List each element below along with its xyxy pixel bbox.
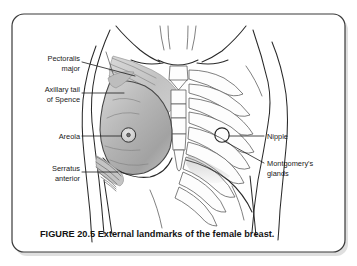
label-axillary-tail-of-spence: Axillary tail of Spence (45, 85, 81, 104)
label-pectoralis-major-line1: Pectoralis (48, 54, 81, 63)
label-axillary-tail-line1: Axillary tail (45, 85, 81, 94)
label-nipple-line1: Nipple (267, 132, 288, 141)
label-pectoralis-major-line2: major (62, 64, 81, 73)
label-axillary-tail-line2: of Spence (47, 95, 80, 104)
label-nipple: Nipple (267, 132, 288, 141)
label-serratus-anterior-line2: anterior (55, 174, 81, 183)
label-areola-line1: Areola (59, 132, 81, 141)
figure-container: Pectoralis major Axillary tail of Spence… (0, 0, 357, 266)
areola-group (121, 128, 135, 142)
label-serratus-anterior-line1: Serratus (52, 164, 80, 173)
label-areola: Areola (59, 132, 81, 141)
nipple-dot-left (127, 133, 131, 137)
figure-caption: FIGURE 20.5 External landmarks of the fe… (40, 229, 274, 239)
figure-illustration: Pectoralis major Axillary tail of Spence… (0, 0, 357, 266)
label-montgomerys-glands-line1: Montgomery's (267, 159, 313, 168)
label-montgomerys-glands-line2: glands (267, 169, 289, 178)
label-serratus-anterior: Serratus anterior (52, 164, 80, 183)
